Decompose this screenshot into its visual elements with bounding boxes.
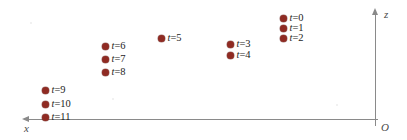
x-axis-label: x: [24, 123, 29, 134]
data-point-label: t=9: [52, 85, 66, 96]
data-point-dot: [102, 69, 109, 76]
paper-speck: [30, 22, 32, 24]
data-point-dot: [42, 114, 49, 121]
paper-speck: [112, 98, 114, 100]
data-point-dot: [102, 43, 109, 50]
data-point-label: t=2: [290, 33, 304, 44]
data-point-dot: [158, 35, 165, 42]
data-point-label: t=5: [168, 33, 182, 44]
data-point-dot: [42, 87, 49, 94]
data-point-label: t=8: [112, 67, 126, 78]
origin-label: O: [381, 122, 389, 133]
position-time-diagram: x z O t=0t=1t=2t=3t=4t=5t=6t=7t=8t=9t=10…: [0, 0, 407, 140]
data-point-label: t=10: [52, 99, 71, 110]
data-point-label: t=4: [237, 50, 251, 61]
data-point-dot: [227, 52, 234, 59]
data-point-label: t=11: [52, 112, 71, 123]
z-axis-arrow-icon: [372, 8, 378, 15]
paper-speck: [336, 104, 338, 106]
z-axis-line: [375, 14, 376, 126]
data-point-label: t=7: [112, 54, 126, 65]
data-point-dot: [280, 15, 287, 22]
data-point-dot: [102, 56, 109, 63]
data-point-dot: [227, 41, 234, 48]
x-axis-line: [26, 119, 378, 120]
data-point-label: t=6: [112, 41, 126, 52]
data-point-dot: [42, 101, 49, 108]
z-axis-label: z: [384, 9, 388, 20]
data-point-dot: [280, 35, 287, 42]
data-point-dot: [280, 25, 287, 32]
data-point-label: t=3: [237, 39, 251, 50]
